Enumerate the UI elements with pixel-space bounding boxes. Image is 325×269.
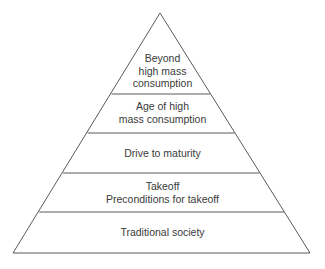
label-line: Age of high [0, 100, 325, 113]
level-beyond-high-mass-consumption: Beyond high mass consumption [0, 52, 325, 90]
label-line: Takeoff [0, 180, 325, 193]
label-line: Drive to maturity [0, 147, 325, 160]
label-line: consumption [0, 77, 325, 90]
label-line: high mass [0, 65, 325, 78]
level-age-of-high-mass-consumption: Age of high mass consumption [0, 100, 325, 125]
level-traditional-society: Traditional society [0, 226, 325, 239]
level-drive-to-maturity: Drive to maturity [0, 147, 325, 160]
label-line: Preconditions for takeoff [0, 193, 325, 206]
level-takeoff: Takeoff Preconditions for takeoff [0, 180, 325, 205]
label-line: mass consumption [0, 113, 325, 126]
label-line: Beyond [0, 52, 325, 65]
label-line: Traditional society [0, 226, 325, 239]
